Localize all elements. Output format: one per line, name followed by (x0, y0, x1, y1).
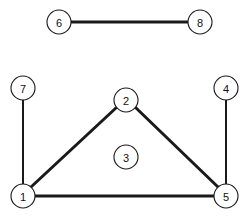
node-label-7: 7 (20, 83, 26, 95)
node-2[interactable]: 2 (114, 88, 138, 112)
node-8[interactable]: 8 (188, 10, 212, 34)
node-label-4: 4 (223, 83, 229, 95)
node-1[interactable]: 1 (11, 184, 35, 208)
node-label-2: 2 (123, 95, 129, 107)
node-label-1: 1 (20, 191, 26, 203)
node-3[interactable]: 3 (114, 145, 138, 169)
graph-canvas: 12345678 (0, 0, 251, 217)
node-5[interactable]: 5 (214, 184, 238, 208)
node-6[interactable]: 6 (47, 10, 71, 34)
node-label-5: 5 (223, 191, 229, 203)
edge-2-5 (135, 107, 218, 187)
node-label-6: 6 (56, 17, 62, 29)
graph-diagram: 12345678 (0, 0, 251, 217)
node-7[interactable]: 7 (11, 76, 35, 100)
node-label-8: 8 (197, 17, 203, 29)
nodes-layer: 12345678 (11, 10, 238, 208)
node-4[interactable]: 4 (214, 76, 238, 100)
node-label-3: 3 (123, 152, 129, 164)
edge-1-2 (31, 107, 117, 187)
